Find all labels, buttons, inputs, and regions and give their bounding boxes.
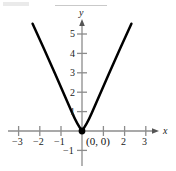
x-axis-arrow-icon xyxy=(152,128,159,133)
y-tick-label-4: 4 xyxy=(70,49,75,59)
x-tick-label-3: 3 xyxy=(142,137,147,147)
y-tick-label-2: 2 xyxy=(70,88,75,98)
x-tick-label-neg2: −2 xyxy=(33,137,44,147)
y-axis-label: y xyxy=(79,8,83,18)
origin-point-label: (0, 0) xyxy=(86,136,110,147)
x-tick-label-neg3: −3 xyxy=(12,137,23,147)
y-axis-arrow-icon xyxy=(79,19,85,26)
origin-point-marker xyxy=(79,128,86,135)
y-tick-label-1: 1 xyxy=(70,107,75,117)
parabola-figure: −3 −2 −1 2 3 −1 1 2 3 4 5 y x (0, 0) xyxy=(0,0,176,171)
x-axis-label: x xyxy=(163,126,167,136)
y-tick-label-neg1: −1 xyxy=(63,146,74,156)
y-tick-label-5: 5 xyxy=(70,29,75,39)
x-tick-label-2: 2 xyxy=(121,137,126,147)
y-tick-label-3: 3 xyxy=(70,68,75,78)
